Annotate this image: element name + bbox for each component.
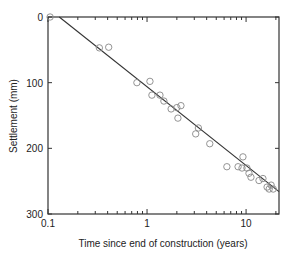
data-point	[105, 44, 111, 50]
x-axis-label: Time since end of construction (years)	[78, 238, 247, 249]
data-point	[248, 174, 254, 180]
data-point	[134, 79, 140, 85]
data-point	[96, 45, 102, 51]
data-point	[175, 115, 181, 121]
data-point	[161, 98, 167, 104]
axis-ticks	[48, 17, 279, 214]
data-point	[149, 92, 155, 98]
data-point	[235, 164, 241, 170]
data-point	[147, 78, 153, 84]
plot-frame	[48, 17, 279, 214]
best-fit-line	[59, 17, 279, 192]
data-points	[47, 14, 277, 192]
x-tick-label: 10	[241, 218, 253, 229]
data-point	[178, 102, 184, 108]
y-tick-label: 100	[26, 78, 43, 89]
y-tick-label: 300	[26, 209, 43, 220]
fit-line	[59, 17, 279, 192]
data-point	[224, 164, 230, 170]
data-point	[207, 141, 213, 147]
plot-border	[48, 17, 279, 214]
x-tick-label: 1	[144, 218, 150, 229]
settlement-chart: 0.11100100200300 Time since end of const…	[0, 0, 295, 259]
y-tick-label: 0	[37, 12, 43, 23]
y-tick-label: 200	[26, 143, 43, 154]
x-tick-label: 0.1	[41, 218, 55, 229]
data-point	[193, 131, 199, 137]
y-axis-label: Settlement (mm)	[8, 79, 19, 153]
data-point	[256, 177, 262, 183]
data-point	[240, 154, 246, 160]
tick-labels: 0.11100100200300	[26, 12, 252, 229]
